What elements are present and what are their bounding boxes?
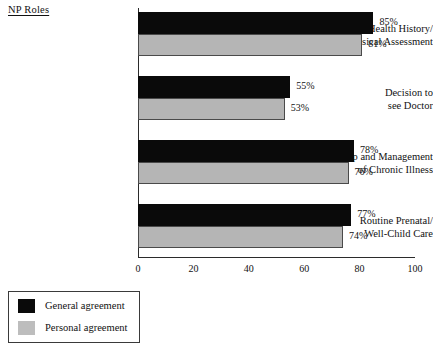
bar-value-personal-3: 74%: [349, 230, 367, 241]
bar-general-1: [138, 76, 290, 98]
legend-label-general: General agreement: [45, 298, 125, 314]
bar-general-0: [138, 12, 373, 34]
x-tick-2: 40: [234, 263, 264, 274]
x-tick-0: 0: [123, 263, 153, 274]
bar-chart: NP Roles Health History/ Physical Assess…: [0, 0, 433, 354]
x-tick-5: 100: [400, 263, 430, 274]
x-axis-line: [138, 257, 415, 258]
bar-value-general-3: 77%: [357, 208, 375, 219]
legend-swatch-general-icon: [18, 299, 35, 313]
x-tick-4: 80: [345, 263, 375, 274]
axis-group-title: NP Roles: [8, 4, 49, 15]
bar-general-2: [138, 140, 354, 162]
bar-personal-2: [138, 162, 349, 184]
plot-area: 85% 81% 55% 53% 78% 76% 77% 74%: [138, 8, 415, 258]
bar-personal-0: [138, 34, 362, 56]
x-tick-1: 20: [178, 263, 208, 274]
x-tick-3: 60: [289, 263, 319, 274]
bar-value-personal-1: 53%: [291, 102, 309, 113]
bar-value-general-0: 85%: [379, 16, 397, 27]
bar-value-personal-2: 76%: [355, 166, 373, 177]
bar-general-3: [138, 204, 351, 226]
bar-value-general-1: 55%: [296, 80, 314, 91]
bar-personal-3: [138, 226, 343, 248]
legend-label-personal: Personal agreement: [45, 320, 128, 336]
legend-swatch-personal-icon: [18, 321, 35, 335]
bar-personal-1: [138, 98, 285, 120]
bar-value-personal-0: 81%: [368, 38, 386, 49]
chart-legend: General agreement Personal agreement: [8, 291, 140, 343]
bar-value-general-2: 78%: [360, 144, 378, 155]
